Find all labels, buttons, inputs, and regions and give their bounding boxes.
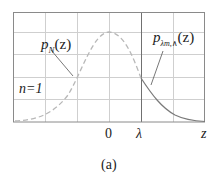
label-pN-arg: (z) bbox=[55, 36, 72, 52]
label-pN: pN(z) bbox=[41, 36, 71, 55]
label-plambda: pλm,∧(z) bbox=[153, 29, 194, 48]
label-plambda-sub: λm,∧ bbox=[161, 39, 178, 48]
leader-line-plambda bbox=[151, 51, 163, 85]
x-axis-label-z: z bbox=[201, 126, 206, 142]
annotation-n1: n=1 bbox=[19, 81, 42, 97]
x-tick-lambda: λ bbox=[136, 126, 142, 142]
figure-caption: (a) bbox=[101, 157, 117, 173]
label-plambda-main: p bbox=[153, 29, 161, 45]
x-tick-0: 0 bbox=[105, 126, 112, 142]
label-pN-main: p bbox=[41, 36, 49, 52]
label-plambda-arg: (z) bbox=[178, 29, 195, 45]
